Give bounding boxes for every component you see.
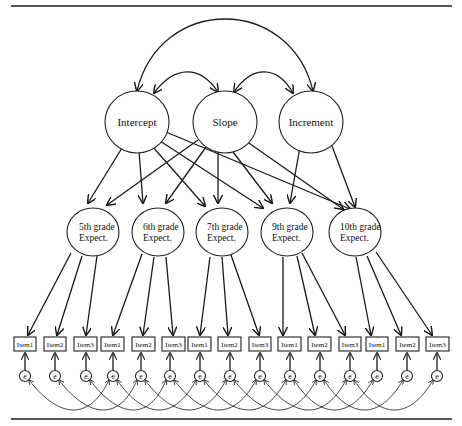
error-circle: e [136,371,147,382]
svg-text:7th grade: 7th grade [207,222,243,232]
svg-text:10th grade: 10th grade [340,222,380,232]
svg-text:Item1: Item1 [191,341,208,349]
svg-text:e: e [348,372,352,381]
svg-text:Item3: Item3 [429,341,446,349]
error-circle: e [345,371,356,382]
item-box: Item3 [162,337,185,351]
factor-covariances [137,19,313,93]
item-box: Item1 [278,337,301,351]
item-box: Item1 [14,337,36,351]
svg-text:Item2: Item2 [311,341,328,349]
sem-diagram: Intercept Slope Increment 5th grade Expe… [0,0,462,426]
label-increment: Increment [289,116,334,128]
error-circle: e [81,371,92,382]
svg-text:Item1: Item1 [369,341,386,349]
cov-slope-increment [234,72,293,93]
grade-factor-5th: 5th grade Expect. [67,208,119,256]
svg-text:e: e [53,372,57,381]
svg-text:Expect.: Expect. [340,233,369,243]
cov-intercept-slope [154,72,218,93]
svg-text:e: e [111,372,115,381]
svg-text:Item3: Item3 [342,341,359,349]
error-terms: e e e e e e e e e e e e e e e [20,371,443,382]
label-slope: Slope [212,116,237,128]
label-intercept: Intercept [117,116,156,128]
error-circle: e [372,371,383,382]
svg-text:Item1: Item1 [281,341,298,349]
svg-text:Expect.: Expect. [272,233,301,243]
svg-text:e: e [405,372,409,381]
error-covariances [29,380,433,410]
svg-text:e: e [23,372,27,381]
error-circle: e [20,371,31,382]
error-paths [25,353,437,370]
svg-text:e: e [435,372,439,381]
svg-text:6th grade: 6th grade [143,222,179,232]
svg-text:e: e [258,372,262,381]
error-circle: e [108,371,119,382]
svg-text:Expect.: Expect. [79,233,108,243]
growth-factor-increment: Increment [279,91,343,153]
item-box: Item2 [308,337,331,351]
svg-text:Item2: Item2 [135,341,152,349]
grade-factor-7th: 7th grade Expect. [196,208,248,256]
svg-text:e: e [139,372,143,381]
growth-factor-slope: Slope [193,91,257,153]
cov-intercept-increment [137,19,313,91]
error-circle: e [432,371,443,382]
error-circle: e [402,371,413,382]
item-box: Item2 [396,337,419,351]
error-circle: e [285,371,296,382]
svg-text:Expect.: Expect. [143,233,172,243]
item-box: Item2 [44,337,66,351]
svg-text:Item1: Item1 [104,341,121,349]
svg-text:e: e [228,372,232,381]
svg-text:Item2: Item2 [221,341,238,349]
svg-text:5th grade: 5th grade [79,222,115,232]
svg-text:Item3: Item3 [165,341,182,349]
error-circle: e [225,371,236,382]
svg-text:e: e [288,372,292,381]
grade-factor-9th: 9th grade Expect. [261,208,313,256]
item-box: Item1 [366,337,388,351]
svg-text:e: e [198,372,202,381]
svg-text:Item3: Item3 [77,341,94,349]
svg-text:Expect.: Expect. [207,233,236,243]
growth-factor-intercept: Intercept [105,91,169,153]
item-box: Item2 [132,337,155,351]
grade-factor-6th: 6th grade Expect. [132,208,184,256]
error-circle: e [165,371,176,382]
svg-text:e: e [375,372,379,381]
svg-text:Item2: Item2 [399,341,416,349]
item-box: Item3 [339,337,361,351]
item-box: Item2 [218,337,241,351]
item-loadings [28,252,432,335]
svg-text:Item1: Item1 [17,341,34,349]
item-box: Item3 [426,337,449,351]
error-circle: e [255,371,266,382]
item-box: Item3 [249,337,271,351]
item-box: Item3 [74,337,97,351]
item-box: Item1 [101,337,124,351]
svg-text:e: e [84,372,88,381]
items: Item1 Item2 Item3 Item1 Item2 Item3 Item… [14,337,449,351]
error-circle: e [50,371,61,382]
error-circle: e [195,371,206,382]
svg-text:9th grade: 9th grade [272,222,308,232]
svg-text:Item2: Item2 [47,341,64,349]
grade-factor-10th: 10th grade Expect. [329,208,381,256]
svg-text:e: e [168,372,172,381]
item-box: Item1 [188,337,211,351]
svg-text:Item3: Item3 [252,341,269,349]
error-circle: e [315,371,326,382]
svg-text:e: e [318,372,322,381]
